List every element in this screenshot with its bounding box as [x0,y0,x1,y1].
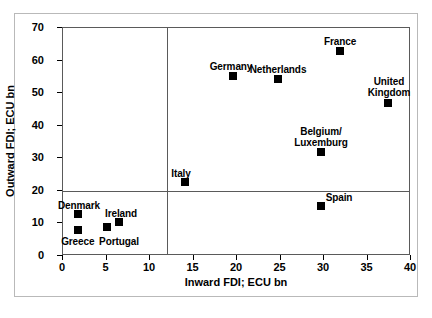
data-point-greece [74,226,82,234]
data-point-united-kingdom [384,99,392,107]
y-tick-label-0: 0 [0,250,44,261]
data-label-greece: Greece [61,236,94,247]
data-label-belgium-luxemburg: Belgium/ Luxemburg [294,126,348,148]
data-label-france: France [324,36,356,47]
data-label-italy: Italy [171,168,191,179]
x-tick-mark-40 [410,255,411,260]
reference-line-horizontal [63,191,409,192]
x-tick-mark-25 [280,255,281,260]
data-label-uk-line2: Kingdom [368,87,411,98]
x-tick-mark-20 [236,255,237,260]
x-tick-label-40: 40 [404,262,416,273]
data-label-ireland: Ireland [105,208,137,219]
reference-line-vertical [167,28,168,254]
data-point-ireland [115,218,123,226]
y-tick-label-50: 50 [0,87,44,98]
data-label-united-kingdom: United Kingdom [368,76,411,98]
data-label-belgium-line2: Luxemburg [294,137,348,148]
data-point-italy [181,178,189,186]
data-point-belgium-luxemburg [317,148,325,156]
data-label-uk-line1: United [368,76,411,87]
y-tick-label-30: 30 [0,152,44,163]
x-tick-label-5: 5 [102,262,108,273]
y-tick-label-10: 10 [0,217,44,228]
x-tick-mark-10 [149,255,150,260]
x-tick-label-30: 30 [317,262,329,273]
y-tick-label-70: 70 [0,22,44,33]
x-tick-label-0: 0 [59,262,65,273]
data-point-portugal [103,223,111,231]
y-axis-title: Outward FDI; ECU bn [4,85,16,197]
x-tick-mark-0 [62,255,63,260]
data-label-netherlands: Netherlands [250,64,307,75]
x-tick-label-15: 15 [186,262,198,273]
data-point-denmark [74,210,82,218]
plot-area: Greece Denmark Portugal Ireland Italy Sp… [62,27,410,255]
x-tick-mark-15 [193,255,194,260]
data-label-germany: Germany [210,61,253,72]
chart-figure: Outward FDI; ECU bn 0 10 20 30 40 50 60 … [0,0,432,318]
data-point-spain [317,202,325,210]
x-tick-label-35: 35 [360,262,372,273]
y-tick-label-40: 40 [0,119,44,130]
data-point-netherlands [274,75,282,83]
y-tick-label-20: 20 [0,184,44,195]
data-label-denmark: Denmark [58,200,100,211]
data-point-germany [229,72,237,80]
x-tick-label-20: 20 [230,262,242,273]
x-axis-title: Inward FDI; ECU bn [185,276,288,288]
data-label-portugal: Portugal [99,236,139,247]
data-point-france [336,47,344,55]
y-tick-label-60: 60 [0,54,44,65]
data-label-spain: Spain [326,192,353,203]
x-tick-label-10: 10 [143,262,155,273]
x-tick-mark-5 [106,255,107,260]
x-tick-label-25: 25 [273,262,285,273]
x-tick-mark-30 [323,255,324,260]
x-tick-mark-35 [367,255,368,260]
data-label-belgium-line1: Belgium/ [294,126,348,137]
